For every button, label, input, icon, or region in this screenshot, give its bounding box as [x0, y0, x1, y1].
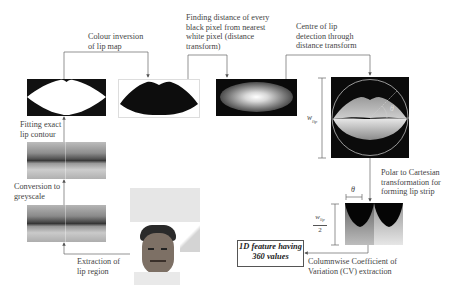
w-lip-label: wlip [307, 113, 317, 124]
label-line: Fitting exact [20, 120, 61, 130]
label-distance-transform: Finding distance of every black pixel fr… [186, 13, 269, 51]
label-line: Columnwise Coefficient of [308, 257, 397, 267]
label-line: Extraction of [77, 257, 120, 267]
theta-label-strip: θ [351, 185, 355, 194]
label-greyscale: Conversion to greyscale [14, 182, 60, 201]
face-photo [130, 188, 200, 285]
lip-contour-mask [27, 79, 106, 116]
label-line: lip contour [20, 130, 61, 140]
label-line: of lip map [88, 42, 143, 52]
lip-strip [345, 203, 403, 245]
label-cv-extraction: Columnwise Coefficient of Variation (CV)… [308, 257, 397, 276]
label-line: detection through [296, 32, 357, 42]
label-extraction: Extraction of lip region [77, 257, 120, 276]
label-line: Variation (CV) extraction [308, 267, 397, 277]
output-feature-box: 1D feature having 360 values [237, 240, 304, 267]
label-line: forming lip strip [381, 187, 441, 197]
label-line: black pixel from nearest [186, 23, 269, 33]
label-centre-of-lip: Centre of lip detection through distance… [296, 22, 357, 51]
label-line: white pixel (distance [186, 32, 269, 42]
label-line: Colour inversion [88, 32, 143, 42]
label-polar-cartesian: Polar to Cartesian transformation for fo… [381, 168, 441, 197]
distance-transform-map [216, 79, 297, 116]
w-lip-subscript: lip [312, 119, 317, 124]
w-lip-half-label: wlip 2 [311, 213, 329, 234]
label-line: Polar to Cartesian [381, 168, 441, 178]
lip-with-polar-circle: θ [331, 77, 409, 158]
greyscale-lip [27, 142, 106, 179]
label-line: transformation for [381, 178, 441, 188]
label-line: greyscale [14, 192, 60, 202]
label-fitting-contour: Fitting exact lip contour [20, 120, 61, 139]
label-line: distance transform [296, 41, 357, 51]
theta-label-circle: θ [390, 104, 394, 113]
label-line: Finding distance of every [186, 13, 269, 23]
output-line: 360 values [238, 252, 303, 262]
label-line: Conversion to [14, 182, 60, 192]
colour-lip-crop [27, 205, 106, 242]
label-line: Centre of lip [296, 22, 357, 32]
inverted-lip-map [118, 79, 200, 118]
output-line: 1D feature having [238, 242, 303, 252]
label-colour-inversion: Colour inversion of lip map [88, 32, 143, 51]
w-lip-half-denominator: 2 [311, 226, 329, 234]
w-lip-half-subscript: lip [320, 217, 325, 222]
label-line: transform) [186, 42, 269, 52]
label-line: lip region [77, 267, 120, 277]
